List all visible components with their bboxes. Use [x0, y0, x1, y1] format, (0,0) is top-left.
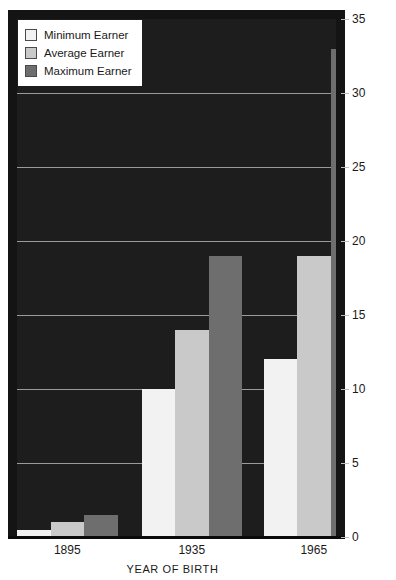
chart-legend: Minimum Earner Average Earner Maximum Ea…: [18, 20, 142, 86]
plot-area: [17, 19, 336, 537]
y-tick-label-10: 10: [352, 383, 365, 395]
bar-1895-average-earner: [51, 522, 85, 537]
y-tick-mark-30: [341, 93, 349, 94]
y-tick-mark-20: [341, 241, 349, 242]
bar-1895-maximum-earner: [84, 515, 118, 537]
y-tick-label-5: 5: [352, 457, 359, 469]
legend-item-maximum-earner: Maximum Earner: [25, 62, 132, 80]
y-tick-mark-0: [341, 537, 349, 538]
axis-baseline: [8, 536, 345, 539]
y-tick-mark-5: [341, 463, 349, 464]
y-tick-label-30: 30: [352, 87, 365, 99]
y-tick-label-35: 35: [352, 13, 365, 25]
gridline-15: [17, 315, 336, 316]
gridline-20: [17, 241, 336, 242]
x-tick-label-1935: 1935: [178, 543, 205, 557]
clipped-header-text: [8, 0, 168, 6]
bar-1965-minimum-earner: [264, 359, 298, 537]
chart-page: YEAR OF BIRTH Minimum Earner Average Ear…: [0, 0, 396, 580]
y-tick-mark-10: [341, 389, 349, 390]
gridline-30: [17, 93, 336, 94]
bar-1935-average-earner: [175, 330, 209, 537]
y-tick-mark-15: [341, 315, 349, 316]
legend-swatch-maximum-earner: [25, 65, 37, 77]
legend-label-average-earner: Average Earner: [44, 47, 124, 59]
bar-1965-maximum-earner: [331, 49, 337, 537]
y-tick-label-20: 20: [352, 235, 365, 247]
gridline-25: [17, 167, 336, 168]
y-tick-mark-35: [341, 19, 349, 20]
legend-swatch-minimum-earner: [25, 29, 37, 41]
y-tick-label-0: 0: [352, 531, 359, 543]
y-tick-label-25: 25: [352, 161, 365, 173]
x-tick-label-1965: 1965: [300, 543, 327, 557]
legend-label-maximum-earner: Maximum Earner: [44, 65, 132, 77]
x-axis-title: YEAR OF BIRTH: [0, 563, 345, 575]
legend-swatch-average-earner: [25, 47, 37, 59]
x-tick-label-1895: 1895: [54, 543, 81, 557]
bar-1935-maximum-earner: [209, 256, 243, 537]
legend-item-minimum-earner: Minimum Earner: [25, 26, 132, 44]
bar-1965-average-earner: [297, 256, 331, 537]
legend-label-minimum-earner: Minimum Earner: [44, 29, 128, 41]
legend-item-average-earner: Average Earner: [25, 44, 132, 62]
bar-1935-minimum-earner: [142, 389, 176, 537]
y-tick-mark-25: [341, 167, 349, 168]
y-tick-label-15: 15: [352, 309, 365, 321]
